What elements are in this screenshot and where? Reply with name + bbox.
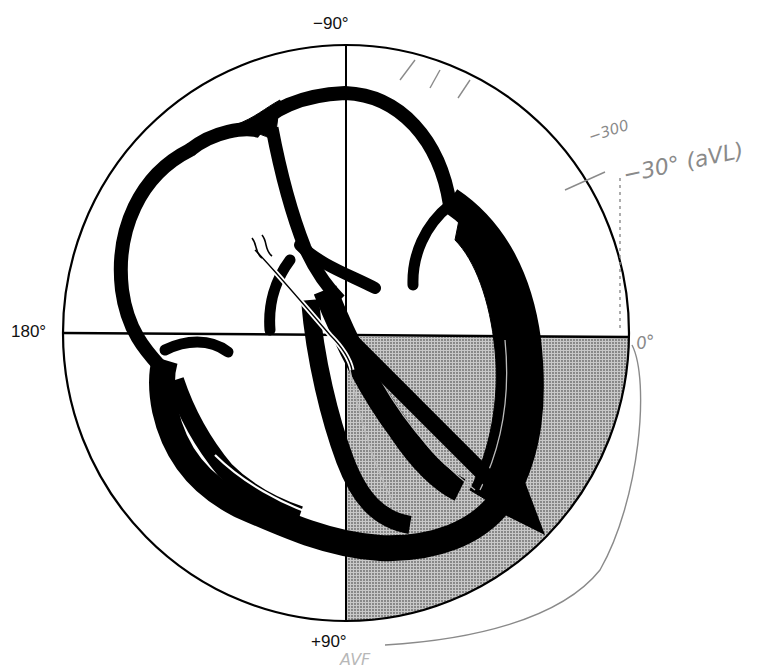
axis-label-180: 180° [11, 322, 46, 342]
axis-label-plus-90: +90° [311, 632, 347, 652]
handwritten-avf-label: AVF [340, 650, 370, 669]
handwritten-zero-degree: 0° [634, 330, 657, 353]
axis-label-minus-90: −90° [313, 14, 349, 34]
